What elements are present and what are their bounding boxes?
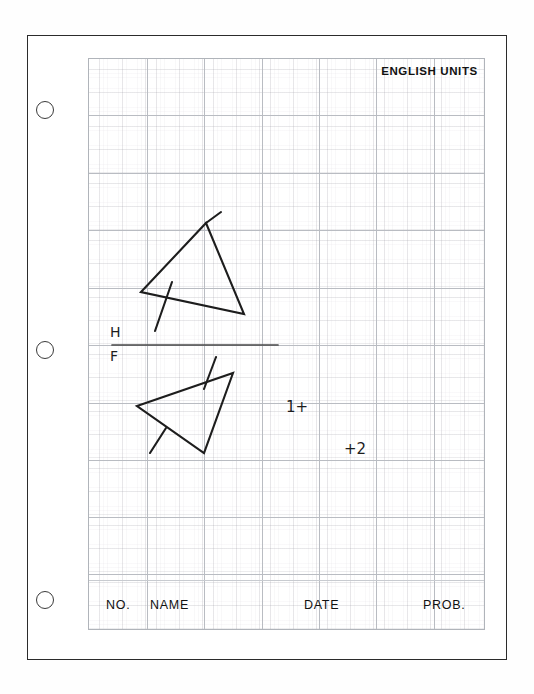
title-block: NO. NAME DATE PROB. — [88, 580, 485, 630]
fold-line-label-h: H — [110, 324, 121, 340]
hole-punch-top — [36, 101, 54, 119]
english-units-stamp: ENGLISH UNITS — [374, 60, 485, 82]
title-block-cell-date: DATE — [304, 580, 339, 630]
title-block-cell-no: NO. — [106, 580, 130, 630]
hole-punch-middle — [36, 341, 54, 359]
hole-punch-bottom — [36, 591, 54, 609]
fold-line-label-f: F — [110, 348, 118, 364]
point-marker-1: 1+ — [286, 398, 308, 416]
title-block-cell-prob: PROB. — [423, 580, 465, 630]
graph-grid-field — [88, 58, 485, 630]
grid-outline — [88, 58, 485, 630]
point-marker-2: +2 — [344, 440, 366, 458]
worksheet-sheet: ENGLISH UNITS H F 1+ +2 NO. NAME DATE PR… — [0, 0, 534, 694]
title-block-cell-name: NAME — [150, 580, 189, 630]
